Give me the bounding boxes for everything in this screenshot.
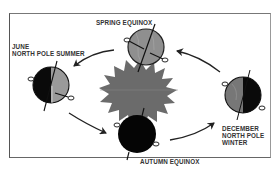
label-june: JUNE NORTH POLE SUMMER <box>12 43 85 57</box>
arrow-icon-december-to-spring <box>177 51 220 72</box>
label-spring-equinox: SPRING EQUINOX <box>96 19 152 26</box>
label-line: SPRING EQUINOX <box>96 19 152 26</box>
seasons-diagram <box>0 0 280 178</box>
label-december: DECEMBER NORTH POLE WINTER <box>222 125 264 146</box>
globe-icon-june <box>28 61 74 111</box>
label-autumn-equinox: AUTUMN EQUINOX <box>140 158 199 165</box>
arrow-icon-autumn-to-december <box>170 123 214 140</box>
globe-icon-december <box>222 70 265 120</box>
label-line: WINTER <box>222 139 264 146</box>
label-line: NORTH POLE <box>222 132 264 139</box>
label-line: DECEMBER <box>222 125 264 132</box>
label-line: NORTH POLE SUMMER <box>12 50 85 57</box>
arrow-icon-june-to-autumn <box>69 113 106 133</box>
label-line: AUTUMN EQUINOX <box>140 158 199 165</box>
label-line: JUNE <box>12 43 85 50</box>
